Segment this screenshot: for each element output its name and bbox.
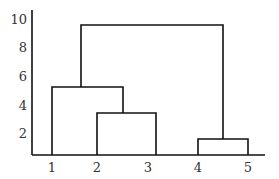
y-tick-label: 8 [19, 40, 27, 55]
merge-4-5 [198, 139, 248, 155]
leaf-label: 3 [144, 160, 152, 175]
leaf-label: 2 [93, 160, 101, 175]
merge-root [81, 25, 223, 139]
y-tick-label: 6 [19, 69, 27, 84]
y-tick-label: 2 [19, 126, 27, 141]
y-tick-label: 4 [19, 98, 27, 113]
y-tick-label: 10 [10, 12, 27, 27]
merge-1-23 [52, 87, 123, 155]
leaf-label: 4 [194, 160, 202, 175]
leaf-label: 5 [244, 160, 252, 175]
merge-2-3 [97, 113, 156, 155]
leaf-label: 1 [48, 160, 56, 175]
dendrogram-chart: 10 8 6 4 2 1 2 3 4 5 [0, 0, 279, 179]
